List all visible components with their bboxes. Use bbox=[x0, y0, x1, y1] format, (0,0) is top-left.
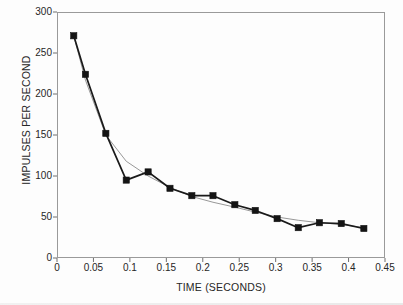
x-tick-label-0.05: 0.05 bbox=[73, 262, 113, 273]
x-tick-label-0: 0 bbox=[37, 262, 77, 273]
x-tick-label-0.35: 0.35 bbox=[292, 262, 332, 273]
x-axis-title: TIME (SECONDS) bbox=[57, 281, 385, 293]
measured-impulse-rate-line bbox=[74, 36, 364, 229]
x-tick-label-0.3: 0.3 bbox=[256, 262, 296, 273]
data-point-markers bbox=[71, 33, 367, 232]
y-axis-ticks bbox=[53, 12, 57, 258]
x-tick-label-0.1: 0.1 bbox=[110, 262, 150, 273]
x-tick-label-0.4: 0.4 bbox=[329, 262, 369, 273]
x-tick-label-0.45: 0.45 bbox=[365, 262, 403, 273]
chart-overlay bbox=[0, 0, 403, 305]
x-tick-label-0.2: 0.2 bbox=[183, 262, 223, 273]
x-tick-label-0.15: 0.15 bbox=[146, 262, 186, 273]
figure-canvas: 050100150200250300 IMPULSES PER SECOND T… bbox=[0, 0, 403, 305]
y-axis-title: IMPULSES PER SECOND bbox=[20, 10, 32, 230]
x-tick-label-0.25: 0.25 bbox=[219, 262, 259, 273]
